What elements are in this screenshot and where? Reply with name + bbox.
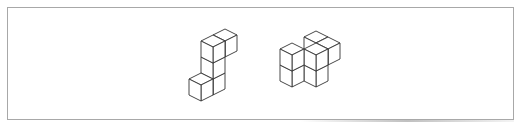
figure-2 [280,31,340,87]
cube [280,43,304,71]
cube [189,73,213,101]
cube [304,43,328,71]
cube [201,35,225,63]
figure-1 [189,29,237,101]
cube-diagram [0,0,523,134]
